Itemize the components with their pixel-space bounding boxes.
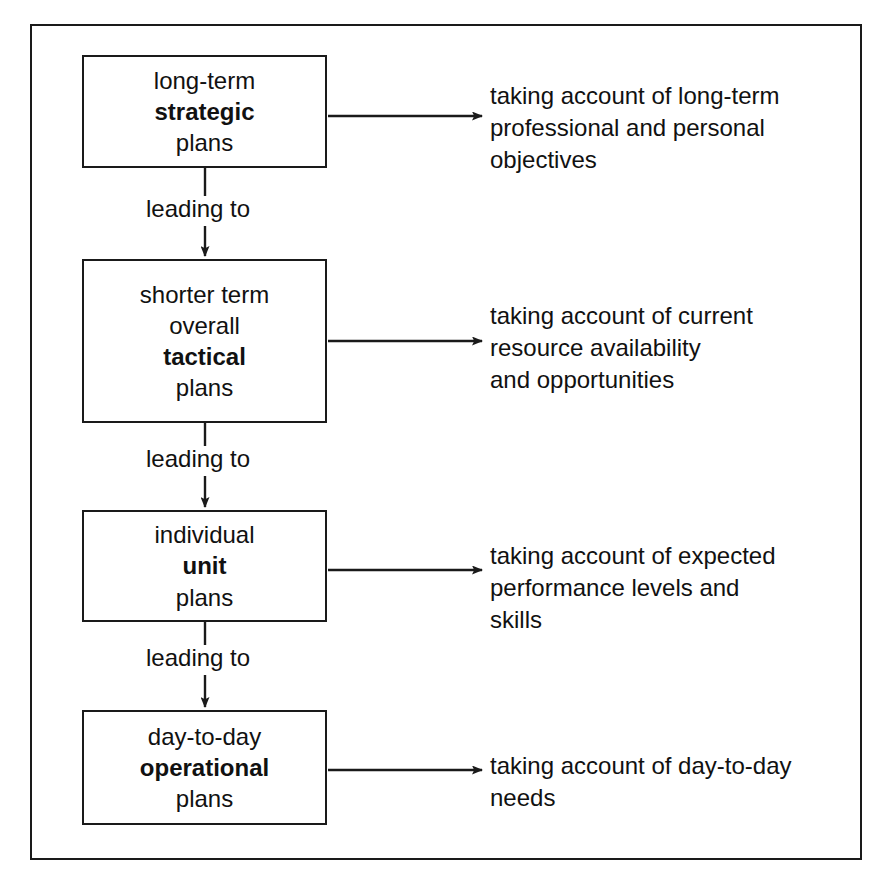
annotation-line: and opportunities [490,364,840,396]
annotation-line: taking account of long-term [490,80,840,112]
stage-line: plans [176,582,233,613]
annotation-line: needs [490,782,840,814]
stage-line: long-term [154,65,255,96]
stage-line: individual [154,519,254,550]
stage-line: shorter term [140,279,269,310]
connector-label-unit-operational: leading to [139,645,257,671]
annotation-line: taking account of current [490,300,840,332]
annotation-unit: taking account of expected performance l… [490,540,840,636]
annotation-line: performance levels and [490,572,840,604]
annotation-line: professional and personal [490,112,840,144]
stage-box-tactical: shorter term overall tactical plans [82,259,327,423]
stage-line-emphasis: strategic [154,96,254,127]
stage-line-emphasis: unit [183,550,227,581]
annotation-line: objectives [490,144,840,176]
annotation-line: taking account of day-to-day [490,750,840,782]
annotation-line: skills [490,604,840,636]
annotation-line: taking account of expected [490,540,840,572]
connector-label-strategic-tactical: leading to [139,196,257,222]
annotation-line: resource availability [490,332,840,364]
stage-line: day-to-day [148,721,261,752]
stage-box-operational: day-to-day operational plans [82,710,327,825]
annotation-tactical: taking account of current resource avail… [490,300,840,396]
stage-line: overall [169,310,240,341]
annotation-strategic: taking account of long-term professional… [490,80,840,176]
annotation-operational: taking account of day-to-day needs [490,750,840,814]
stage-box-unit: individual unit plans [82,510,327,622]
stage-line-emphasis: operational [140,752,269,783]
stage-box-strategic: long-term strategic plans [82,55,327,168]
stage-line: plans [176,783,233,814]
stage-line-emphasis: tactical [163,341,246,372]
connector-label-tactical-unit: leading to [139,446,257,472]
stage-line: plans [176,127,233,158]
stage-line: plans [176,372,233,403]
